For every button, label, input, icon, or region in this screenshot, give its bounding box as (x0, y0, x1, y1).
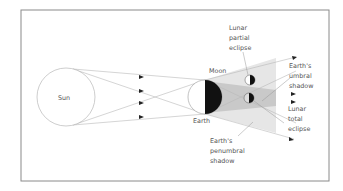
eclipse-diagram: Sun Earth Moon Lunar partial eclipse Ear… (0, 0, 343, 191)
sun-label: Sun (58, 94, 70, 102)
moon-partial-eclipse (245, 75, 255, 85)
earths-umbral-shadow-label: Earth's umbral shadow (289, 62, 314, 90)
lunar-partial-eclipse-label: Lunar partial eclipse (229, 24, 252, 52)
moon-total-eclipse (244, 93, 254, 103)
earth-label: Earth (193, 117, 210, 125)
earth (188, 80, 222, 114)
moon-label: Moon (209, 67, 226, 75)
